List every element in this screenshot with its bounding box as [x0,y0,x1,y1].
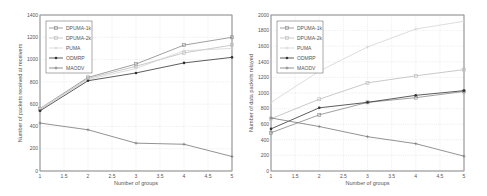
y-tick-label: 400 [261,137,270,143]
x-tick-label: 3.5 [157,173,164,179]
legend-label: PUMA [297,45,312,51]
y-tick-label: 2000 [258,12,269,18]
x-tick-label: 4 [414,173,417,179]
legend-label: ODMRP [66,55,85,61]
x-tick-label: 1 [39,173,42,179]
y-tick-label: 1000 [27,56,38,62]
y-tick-label: 200 [261,152,270,158]
x-axis-label: Number of groups [345,180,389,186]
y-tick-label: 0 [266,168,269,174]
y-tick-label: 0 [35,168,38,174]
x-tick-label: 4 [183,173,186,179]
y-tick-label: 200 [30,145,39,151]
legend-label: ODMRP [297,55,316,61]
y-tick-label: 1400 [27,12,38,18]
x-tick-label: 2.5 [340,173,347,179]
y-tick-label: 1800 [258,27,269,33]
x-tick-label: 4.5 [436,173,443,179]
x-tick-label: 3 [135,173,138,179]
chart-svg: 11.522.533.544.5502004006008001000120014… [245,0,487,196]
legend-label: MAODV [66,65,85,71]
y-tick-label: 1600 [258,43,269,49]
legend: DPUMA-1kDPUMA-2kPUMAODMRPMAODV [46,21,92,73]
legend-label: DPUMA-1k [66,25,92,31]
y-tick-label: 1200 [27,34,38,40]
legend-label: PUMA [66,45,81,51]
y-tick-label: 400 [30,123,39,129]
y-tick-label: 1400 [258,59,269,65]
x-axis-label: Number of groups [114,180,158,186]
x-tick-label: 5 [231,173,234,179]
x-tick-label: 1.5 [61,173,68,179]
x-tick-label: 3 [366,173,369,179]
x-tick-label: 3.5 [388,173,395,179]
y-tick-label: 600 [30,101,39,107]
x-tick-label: 4.5 [205,173,212,179]
chart-svg: 11.522.533.544.5502004006008001000120014… [0,0,245,196]
legend-label: DPUMA-1k [297,25,323,31]
x-tick-label: 1 [270,173,273,179]
y-tick-label: 1000 [258,90,269,96]
y-tick-label: 1200 [258,74,269,80]
y-axis-label: Number of packets received at receivers [17,44,23,143]
x-tick-label: 2 [318,173,321,179]
y-axis-label: Number of data packets relayed [248,54,254,132]
y-tick-label: 800 [261,105,270,111]
packets-relayed-chart: 11.522.533.544.5502004006008001000120014… [245,0,487,196]
x-tick-label: 2 [87,173,90,179]
x-tick-label: 2.5 [109,173,116,179]
legend-label: DPUMA-2k [297,35,323,41]
legend-label: MAODV [297,65,316,71]
legend-label: DPUMA-2k [66,35,92,41]
x-tick-label: 1.5 [292,173,299,179]
y-tick-label: 800 [30,79,39,85]
legend: DPUMA-1kDPUMA-2kPUMAODMRPMAODV [277,21,323,73]
packets-received-chart: 11.522.533.544.5502004006008001000120014… [0,0,245,196]
y-tick-label: 600 [261,121,270,127]
x-tick-label: 5 [463,173,466,179]
